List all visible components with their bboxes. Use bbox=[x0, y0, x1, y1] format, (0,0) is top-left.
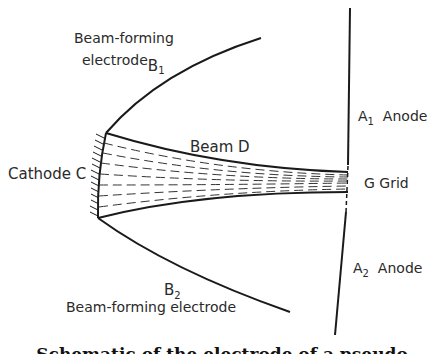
a2-text: Anode bbox=[378, 260, 423, 276]
b1-text: electrode bbox=[82, 52, 148, 68]
label-b1-line2: electrodeB1 bbox=[82, 52, 165, 70]
label-grid: G Grid bbox=[364, 175, 409, 191]
label-cathode: Cathode C bbox=[8, 166, 86, 182]
a1-text: Anode bbox=[383, 108, 428, 124]
a1-symbol: A bbox=[358, 108, 368, 124]
electrode-b2 bbox=[98, 218, 290, 312]
a2-sub: 2 bbox=[363, 268, 369, 279]
figure-caption: Schematic of the electrode of a pseudo bbox=[0, 340, 444, 354]
cathode-surface bbox=[98, 133, 106, 218]
label-b1-line1: Beam-forming bbox=[74, 30, 174, 46]
a1-sub: 1 bbox=[368, 116, 374, 127]
b1-sub: 1 bbox=[158, 65, 164, 76]
beam-lower-edge bbox=[98, 192, 348, 218]
label-b2-text: Beam-forming electrode bbox=[66, 299, 236, 315]
label-a2: A2 Anode bbox=[353, 260, 422, 278]
label-beam: Beam D bbox=[190, 139, 250, 155]
b2-symbol: B bbox=[164, 281, 174, 299]
anode-a1 bbox=[348, 8, 350, 165]
label-a1: A1 Anode bbox=[358, 108, 427, 126]
a2-symbol: A bbox=[353, 260, 363, 276]
label-b2-symbol: B2 bbox=[164, 282, 181, 300]
anode-a2 bbox=[335, 212, 346, 335]
b1-symbol: B bbox=[148, 57, 158, 75]
